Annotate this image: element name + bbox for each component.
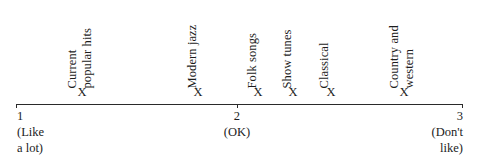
axis-anchor-dont-like: 3 (Don't like) [432, 108, 463, 156]
axis-anchor-left-value: 1 [17, 108, 44, 124]
category-label-current-popular-hits-line1: Current [66, 49, 79, 88]
category-label-current-popular-hits-line2: popular hits [81, 27, 94, 88]
category-label-country-and-western-line1: Country and [388, 25, 401, 88]
marker-current-popular-hits: X [75, 86, 89, 99]
category-label-folk-songs: Folk songs [246, 32, 259, 88]
axis-anchor-right-line2: like) [432, 140, 463, 156]
marker-country-and-western: X [397, 86, 411, 99]
marker-show-tunes: X [286, 86, 300, 99]
axis-anchor-mid-value: 2 [224, 108, 250, 124]
category-label-classical: Classical [318, 42, 331, 88]
category-label-show-tunes: Show tunes [281, 29, 294, 88]
axis-anchor-like-a-lot: 1 (Like a lot) [17, 108, 44, 156]
axis-anchor-ok: 2 (OK) [224, 108, 250, 140]
category-label-country-and-western-line2: western [403, 48, 416, 88]
axis-line [16, 104, 462, 105]
axis-anchor-left-line1: (Like [17, 124, 44, 140]
rating-scale-chart: Current popular hits Modern jazz Folk so… [0, 0, 477, 168]
axis-anchor-right-value: 3 [432, 108, 463, 124]
marker-modern-jazz: X [191, 86, 205, 99]
axis-anchor-mid-line1: (OK) [224, 124, 250, 140]
axis-anchor-left-line2: a lot) [17, 140, 44, 156]
marker-classical: X [324, 86, 338, 99]
marker-folk-songs: X [251, 86, 265, 99]
category-label-modern-jazz: Modern jazz [186, 24, 199, 88]
axis-anchor-right-line1: (Don't [432, 124, 463, 140]
